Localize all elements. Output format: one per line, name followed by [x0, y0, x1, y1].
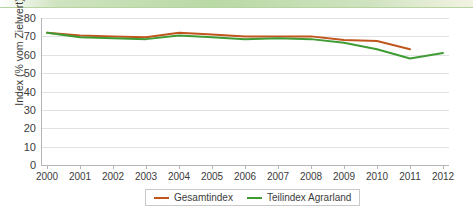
chart-container: Index (% vom Zielwert) 01020304050607080… [0, 0, 473, 211]
series-lines-layer [41, 18, 449, 165]
x-tick-label: 2007 [267, 171, 289, 182]
legend-label: Teilindex Agrarland [267, 192, 352, 203]
y-tick-label: 80 [24, 12, 36, 24]
y-tick-label: 0 [30, 159, 36, 171]
y-tick-label: 20 [24, 122, 36, 134]
x-tick-label: 2004 [168, 171, 190, 182]
x-tick-label: 2008 [300, 171, 322, 182]
x-tick-mark [245, 165, 246, 169]
series-line [47, 33, 410, 50]
y-tick-label: 60 [24, 49, 36, 61]
y-tick-label: 30 [24, 104, 36, 116]
x-tick-mark [410, 165, 411, 169]
x-tick-mark [146, 165, 147, 169]
x-tick-label: 2012 [432, 171, 454, 182]
x-tick-mark [113, 165, 114, 169]
x-tick-label: 2005 [201, 171, 223, 182]
x-tick-label: 2011 [399, 171, 421, 182]
legend-item-teilindex-agrarland[interactable]: Teilindex Agrarland [247, 192, 352, 203]
y-tick-label: 50 [24, 67, 36, 79]
x-tick-label: 2010 [366, 171, 388, 182]
x-tick-label: 2001 [69, 171, 91, 182]
x-tick-mark [47, 165, 48, 169]
decorative-top-band-rule [0, 7, 473, 8]
x-tick-label: 2003 [135, 171, 157, 182]
x-tick-mark [212, 165, 213, 169]
legend-label: Gesamtindex [174, 192, 233, 203]
plot-area: 01020304050607080 2000200120022003200420… [41, 18, 449, 165]
y-tick-label: 70 [24, 30, 36, 42]
x-tick-mark [278, 165, 279, 169]
x-tick-mark [179, 165, 180, 169]
x-tick-mark [344, 165, 345, 169]
legend-swatch-icon [154, 197, 169, 199]
x-tick-label: 2002 [102, 171, 124, 182]
x-tick-label: 2000 [36, 171, 58, 182]
x-tick-mark [377, 165, 378, 169]
y-tick-label: 40 [24, 86, 36, 98]
x-tick-label: 2006 [234, 171, 256, 182]
legend-item-gesamtindex[interactable]: Gesamtindex [154, 192, 233, 203]
x-tick-mark [80, 165, 81, 169]
x-tick-mark [443, 165, 444, 169]
legend-swatch-icon [247, 197, 262, 199]
x-tick-mark [311, 165, 312, 169]
x-tick-label: 2009 [333, 171, 355, 182]
y-tick-label: 10 [24, 141, 36, 153]
chart-legend: Gesamtindex Teilindex Agrarland [145, 189, 360, 206]
